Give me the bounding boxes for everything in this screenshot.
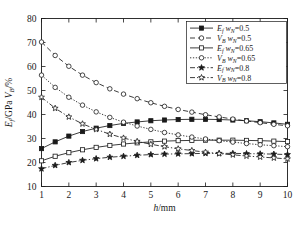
x-tick-label: 5	[148, 190, 153, 200]
data-point-marker	[176, 133, 181, 138]
data-point-marker	[199, 36, 204, 41]
data-point-marker	[39, 166, 45, 172]
data-point-marker	[80, 121, 86, 127]
data-point-marker	[244, 119, 249, 124]
data-point-marker	[66, 114, 72, 120]
data-point-marker	[231, 140, 236, 145]
data-point-marker	[285, 140, 289, 144]
data-point-marker	[121, 120, 126, 125]
data-point-marker	[67, 95, 72, 100]
x-tick-label: 9	[258, 190, 263, 200]
data-point-marker	[80, 157, 86, 163]
data-point-marker	[135, 96, 140, 101]
y-axis-title: Ef/GPa VB/%	[4, 78, 15, 129]
data-point-marker	[199, 56, 204, 61]
y-tick-label: 10	[27, 182, 37, 192]
data-point-marker	[67, 151, 71, 155]
data-point-marker	[107, 154, 113, 160]
data-point-marker	[94, 80, 99, 85]
data-point-marker	[199, 26, 203, 30]
data-point-marker	[121, 92, 126, 97]
data-point-marker	[162, 104, 167, 109]
data-point-marker	[199, 46, 203, 50]
series-4	[39, 150, 291, 171]
y-tick-label: 80	[27, 14, 37, 24]
data-point-marker	[272, 139, 276, 143]
data-point-marker	[162, 151, 168, 157]
data-point-marker	[285, 144, 290, 149]
data-point-marker	[258, 142, 263, 147]
data-point-marker	[189, 147, 195, 153]
data-point-marker	[162, 118, 166, 122]
data-point-marker	[121, 153, 127, 159]
data-point-marker	[190, 117, 194, 121]
data-point-marker	[39, 73, 44, 78]
y-tick-label: 50	[27, 86, 37, 96]
x-tick-label: 2	[66, 190, 71, 200]
data-point-marker	[107, 131, 113, 137]
y-tick-label: 30	[27, 134, 37, 144]
x-tick-label: 10	[283, 190, 293, 200]
data-point-marker	[257, 154, 263, 160]
legend-label: Ef wN=0.65	[216, 44, 253, 54]
y-tick-label: 20	[27, 158, 37, 168]
data-point-marker	[80, 103, 85, 108]
data-point-marker	[121, 135, 127, 141]
data-point-marker	[108, 123, 112, 127]
data-point-marker	[53, 154, 57, 158]
data-point-marker	[149, 100, 154, 105]
y-tick-label: 70	[27, 38, 37, 48]
data-point-marker	[148, 151, 154, 157]
data-point-marker	[80, 73, 85, 78]
data-point-marker	[217, 115, 222, 120]
data-point-marker	[176, 107, 181, 112]
data-point-marker	[203, 112, 208, 117]
data-point-marker	[285, 124, 290, 129]
data-point-marker	[66, 159, 72, 165]
data-point-marker	[271, 155, 277, 161]
data-point-marker	[162, 144, 168, 150]
x-tick-label: 1	[39, 190, 44, 200]
data-point-marker	[121, 142, 125, 146]
data-point-marker	[217, 138, 222, 143]
x-tick-label: 7	[203, 190, 208, 200]
data-point-marker	[94, 145, 98, 149]
legend: Ef wN=0.5VB wN=0.5Ef wN=0.65VB wN=0.65Ef…	[187, 22, 287, 84]
data-point-marker	[149, 127, 154, 132]
data-point-marker	[135, 124, 140, 128]
data-point-marker	[258, 120, 263, 125]
x-tick-label: 3	[94, 190, 99, 200]
data-point-marker	[39, 146, 43, 150]
data-point-marker	[175, 146, 181, 152]
data-point-marker	[272, 122, 277, 127]
figure-container: 123456789101020304050607080h/mmEf/GPa VB…	[0, 0, 304, 229]
data-point-marker	[39, 40, 44, 45]
data-point-marker	[39, 159, 43, 163]
data-point-marker	[94, 110, 99, 115]
data-point-marker	[190, 110, 195, 115]
data-point-marker	[80, 129, 84, 133]
data-point-marker	[162, 130, 167, 135]
data-point-marker	[67, 134, 71, 138]
data-point-marker	[52, 105, 58, 111]
data-point-marker	[149, 119, 153, 123]
data-point-marker	[53, 53, 58, 58]
data-point-marker	[176, 117, 180, 121]
data-point-marker	[203, 117, 207, 121]
data-point-marker	[190, 135, 195, 140]
data-point-marker	[53, 140, 57, 144]
series-3	[39, 73, 290, 149]
data-point-marker	[93, 156, 99, 162]
data-point-marker	[176, 139, 180, 143]
data-point-marker	[231, 117, 236, 122]
data-point-marker	[108, 87, 113, 92]
chart-canvas: 123456789101020304050607080h/mmEf/GPa VB…	[0, 0, 304, 229]
data-point-marker	[52, 162, 58, 168]
data-point-marker	[53, 85, 58, 90]
data-point-marker	[108, 115, 113, 120]
data-point-marker	[244, 141, 249, 146]
data-point-marker	[80, 148, 84, 152]
svg-text:Ef/GPa VB/%: Ef/GPa VB/%	[4, 78, 15, 129]
x-tick-label: 6	[176, 190, 181, 200]
y-tick-label: 40	[27, 110, 37, 120]
